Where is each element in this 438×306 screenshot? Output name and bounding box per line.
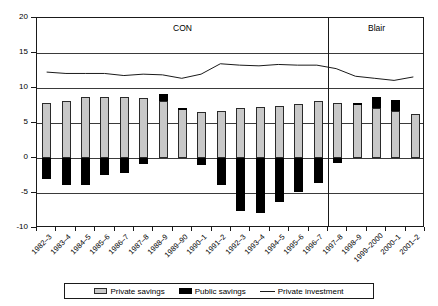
era-label: CON xyxy=(173,24,192,33)
x-tick-mark xyxy=(249,227,250,231)
x-tick-mark xyxy=(424,227,425,231)
private-savings-swatch-icon xyxy=(94,288,107,294)
x-tick-mark xyxy=(269,227,270,231)
legend-item-private-investment: Private investment xyxy=(260,287,344,296)
y-axis-tick-labels: 20151050-5-10 xyxy=(0,17,33,227)
y-tick-mark xyxy=(31,87,36,88)
y-tick-mark xyxy=(31,192,36,193)
x-tick-mark xyxy=(152,227,153,231)
private-investment-line xyxy=(37,18,423,226)
x-tick-mark xyxy=(94,227,95,231)
x-tick-mark xyxy=(211,227,212,231)
public-savings-swatch-icon xyxy=(179,288,192,294)
x-tick-mark xyxy=(75,227,76,231)
x-tick-mark xyxy=(405,227,406,231)
y-tick-mark xyxy=(31,17,36,18)
x-tick-mark xyxy=(172,227,173,231)
plot-area: CONBlair xyxy=(36,17,424,227)
era-divider-line xyxy=(328,18,329,226)
x-tick-mark xyxy=(36,227,37,231)
x-tick-mark xyxy=(308,227,309,231)
legend-item-public-savings: Public savings xyxy=(179,287,246,296)
y-tick-mark xyxy=(31,52,36,53)
y-tick-label: 10 xyxy=(19,83,28,91)
x-axis-tick-marks xyxy=(36,227,424,232)
y-tick-label: 0 xyxy=(24,153,28,161)
y-tick-mark xyxy=(31,227,36,228)
savings-investment-chart: 20151050-5-10 CONBlair 1982–31983–41984–… xyxy=(0,0,438,306)
x-tick-mark xyxy=(366,227,367,231)
era-label: Blair xyxy=(368,24,385,33)
x-tick-mark xyxy=(346,227,347,231)
y-tick-label: 5 xyxy=(24,118,28,126)
x-tick-mark xyxy=(327,227,328,231)
private-investment-line-icon xyxy=(260,289,275,294)
legend-item-private-savings: Private savings xyxy=(94,287,164,296)
x-tick-mark xyxy=(288,227,289,231)
x-axis-tick-labels: 1982–31983–41984–51985–61986–71987–81988… xyxy=(0,233,438,283)
legend-label-private-investment: Private investment xyxy=(278,287,344,296)
x-tick-mark xyxy=(385,227,386,231)
chart-legend: Private savings Public savings Private i… xyxy=(64,283,374,299)
y-tick-label: -10 xyxy=(16,223,28,231)
y-tick-label: -5 xyxy=(21,188,28,196)
x-tick-mark xyxy=(114,227,115,231)
y-tick-mark xyxy=(31,157,36,158)
x-tick-mark xyxy=(230,227,231,231)
x-tick-mark xyxy=(191,227,192,231)
x-tick-mark xyxy=(55,227,56,231)
legend-label-public-savings: Public savings xyxy=(195,287,246,296)
y-tick-mark xyxy=(31,122,36,123)
legend-label-private-savings: Private savings xyxy=(110,287,164,296)
y-tick-label: 20 xyxy=(19,13,28,21)
x-tick-mark xyxy=(133,227,134,231)
y-tick-label: 15 xyxy=(19,48,28,56)
